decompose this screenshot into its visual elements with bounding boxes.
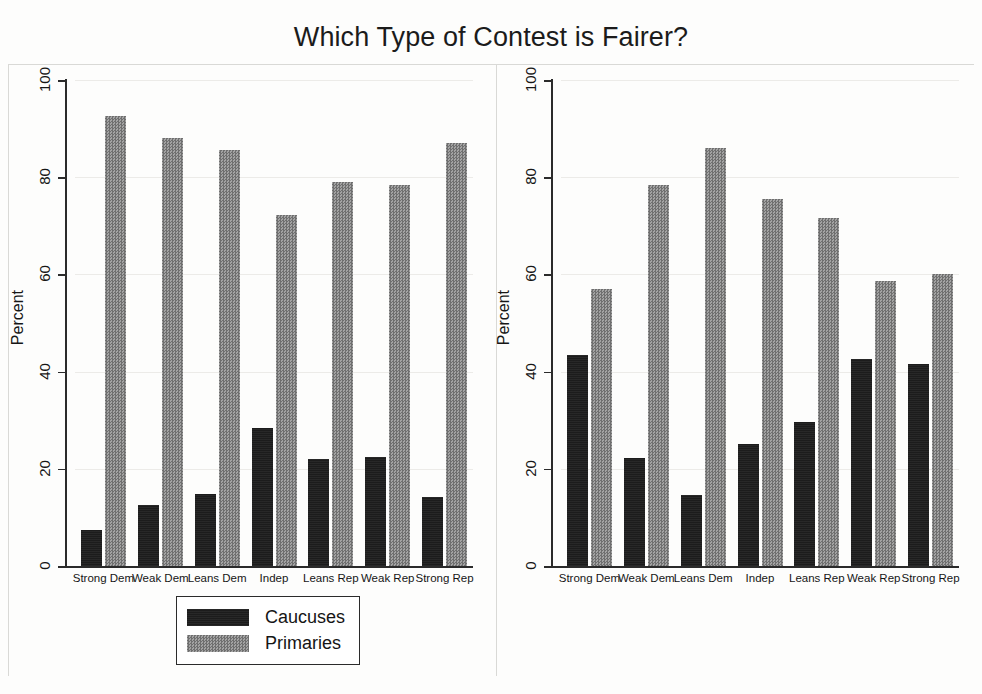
bar [818,218,839,566]
y-axis-tick-label: 40 [37,358,52,384]
y-axis-tick-label: 20 [523,455,538,481]
y-axis-tick [544,80,552,82]
x-axis-tick-label: Indep [260,572,289,584]
y-axis-tick-label: 100 [523,67,538,93]
bar [138,505,159,566]
bar [308,459,329,566]
bar [875,281,896,566]
y-axis-tick [58,469,66,471]
y-axis-line-left [65,79,67,567]
bar [422,497,443,566]
x-axis-tick-label: Weak Rep [361,572,414,584]
x-axis-line-right [551,566,959,568]
x-axis-tick-label: Weak Dem [132,572,189,584]
bar [681,495,702,566]
bar [389,185,410,567]
bar [195,494,216,566]
y-axis-tick-label: 0 [37,553,52,579]
bar [252,428,273,567]
bar [365,457,386,566]
bar [932,274,953,566]
bar [648,185,669,566]
bar [81,530,102,566]
gridline [75,80,473,81]
y-axis-tick [58,566,66,568]
y-axis-tick [58,274,66,276]
gridline [75,177,473,178]
y-axis-tick [544,372,552,374]
legend-swatch-caucuses [187,609,249,626]
y-axis-tick-label: 40 [523,358,538,384]
y-axis-line-right [551,79,553,567]
legend-label: Caucuses [265,607,345,628]
gridline [561,274,959,275]
x-axis-tick-label: Strong Dem [73,572,134,584]
gridline [561,177,959,178]
chart-panel-right: Percent 020406080100Strong DemWeak DemLe… [486,0,982,694]
chart-panel-left: Percent 020406080100Strong DemWeak DemLe… [0,0,496,694]
gridline [75,469,473,470]
y-axis-tick-label: 0 [523,553,538,579]
bar [624,458,645,566]
x-axis-tick-label: Indep [746,572,775,584]
legend-item[interactable]: Caucuses [187,604,345,630]
x-axis-line-left [65,566,473,568]
y-axis-tick-label: 60 [523,261,538,287]
y-axis-tick [544,566,552,568]
legend-label: Primaries [265,633,341,654]
x-axis-tick-label: Leans Rep [303,572,359,584]
y-axis-tick [544,177,552,179]
y-axis-tick-label: 60 [37,261,52,287]
y-axis-tick-label: 80 [37,164,52,190]
x-axis-tick-label: Strong Rep [415,572,473,584]
gridline [561,372,959,373]
y-axis-title-right: Percent [495,290,513,345]
bar [219,150,240,567]
bar [591,289,612,566]
gridline [75,372,473,373]
y-axis-tick [58,177,66,179]
legend-left: Caucuses Primaries [176,596,360,665]
bar [276,215,297,566]
bar [738,444,759,566]
bar [567,355,588,566]
x-axis-tick-label: Weak Rep [847,572,900,584]
gridline [75,274,473,275]
x-axis-tick-label: Weak Dem [618,572,675,584]
x-axis-tick-label: Strong Dem [559,572,620,584]
x-axis-tick-label: Leans Dem [674,572,733,584]
bar [762,199,783,566]
bar [332,182,353,566]
bar [794,422,815,566]
y-axis-tick [544,469,552,471]
legend-swatch-primaries [187,635,249,652]
bar [105,116,126,566]
y-axis-tick-label: 100 [37,67,52,93]
x-axis-tick-label: Strong Rep [901,572,959,584]
y-axis-tick-label: 20 [37,455,52,481]
bar [162,138,183,566]
y-axis-tick [544,274,552,276]
y-axis-tick-label: 80 [523,164,538,190]
gridline [561,469,959,470]
figure-page: Which Type of Contest is Fairer? Percent… [0,0,982,694]
x-axis-tick-label: Leans Rep [789,572,845,584]
bar [851,359,872,566]
bar [908,364,929,566]
gridline [561,80,959,81]
y-axis-tick [58,80,66,82]
legend-item[interactable]: Primaries [187,630,345,656]
bar [446,143,467,566]
bar [705,148,726,566]
plot-area-left: Percent 020406080100Strong DemWeak DemLe… [75,80,473,566]
y-axis-title-left: Percent [9,290,27,345]
plot-area-right: Percent 020406080100Strong DemWeak DemLe… [561,80,959,566]
y-axis-tick [58,372,66,374]
x-axis-tick-label: Leans Dem [188,572,247,584]
